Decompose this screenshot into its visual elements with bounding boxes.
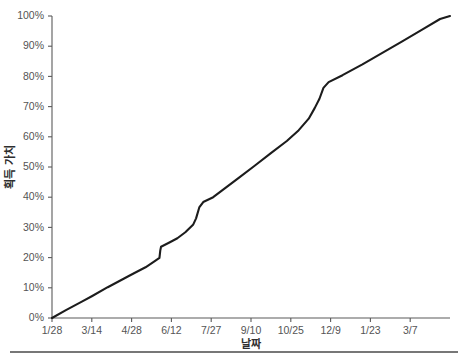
y-tick-label: 70% bbox=[23, 100, 44, 112]
y-tick-label: 90% bbox=[23, 39, 44, 51]
y-tick-label: 40% bbox=[23, 190, 44, 202]
chart-container: 0%10%20%30%40%50%60%70%80%90%100% 1/283/… bbox=[0, 0, 468, 360]
x-axis-title: 날짜 bbox=[241, 337, 262, 350]
y-tick-label: 0% bbox=[29, 311, 44, 323]
x-tick-label: 1/28 bbox=[42, 324, 63, 336]
y-tick-label: 50% bbox=[23, 160, 44, 172]
y-tick-label: 100% bbox=[17, 9, 44, 21]
chart-background bbox=[0, 0, 468, 360]
y-tick-label: 20% bbox=[23, 251, 44, 263]
x-tick-label: 12/9 bbox=[320, 324, 341, 336]
x-tick-label: 3/14 bbox=[82, 324, 103, 336]
y-tick-label: 10% bbox=[23, 281, 44, 293]
x-tick-label: 9/10 bbox=[241, 324, 262, 336]
x-tick-label: 4/28 bbox=[121, 324, 142, 336]
y-axis-title: 획득 가치 bbox=[3, 145, 16, 188]
x-tick-label: 6/12 bbox=[161, 324, 182, 336]
x-tick-label: 7/27 bbox=[201, 324, 222, 336]
y-tick-label: 80% bbox=[23, 70, 44, 82]
x-tick-label: 10/25 bbox=[278, 324, 304, 336]
x-tick-label: 1/23 bbox=[360, 324, 381, 336]
y-tick-label: 30% bbox=[23, 221, 44, 233]
y-tick-label: 60% bbox=[23, 130, 44, 142]
earned-value-line-chart: 0%10%20%30%40%50%60%70%80%90%100% 1/283/… bbox=[0, 0, 468, 360]
x-tick-label: 3/7 bbox=[403, 324, 418, 336]
